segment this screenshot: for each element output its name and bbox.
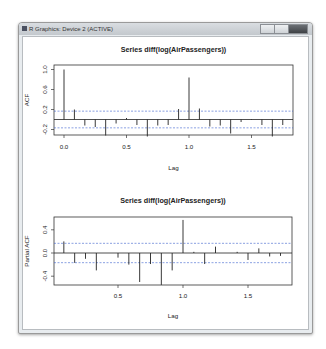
x-axis-label: Lag [168, 164, 179, 171]
plot-title: Series diff(log(AirPassengers)) [120, 196, 226, 205]
y-axis-label: ACF [23, 94, 30, 107]
plots-svg: Series diff(log(AirPassengers))0.00.51.0… [23, 37, 308, 331]
y-axis-label: Partial ACF [23, 235, 30, 267]
x-tick-label: 1.5 [247, 143, 256, 150]
minimize-button[interactable] [260, 24, 275, 34]
y-tick-label: 1.0 [41, 65, 48, 74]
x-tick-label: 1.5 [244, 292, 253, 299]
window-controls [261, 24, 308, 33]
plot-frame [54, 65, 293, 135]
title-bar[interactable]: R Graphics: Device 2 (ACTIVE) [19, 23, 312, 35]
y-tick-label: 0.4 [41, 225, 48, 234]
x-tick-label: 0.5 [122, 143, 131, 150]
y-tick-label: 0.6 [41, 85, 48, 94]
plot-frame [54, 217, 292, 285]
window-title: R Graphics: Device 2 (ACTIVE) [29, 24, 113, 34]
x-tick-label: 1.0 [185, 143, 194, 150]
y-tick-label: -0.2 [41, 124, 48, 135]
y-tick-label: -0.4 [41, 270, 48, 281]
x-tick-label: 1.0 [179, 292, 188, 299]
x-tick-label: 0.5 [114, 292, 123, 299]
x-tick-label: 0.0 [60, 143, 69, 150]
y-tick-label: 0.2 [41, 105, 48, 114]
y-tick-label: 0.0 [41, 248, 48, 257]
maximize-button[interactable] [274, 24, 289, 34]
r-app-icon [22, 26, 27, 31]
x-axis-label: Lag [168, 312, 179, 319]
plot-title: Series diff(log(AirPassengers)) [121, 45, 227, 54]
plot-canvas: Series diff(log(AirPassengers))0.00.51.0… [22, 36, 309, 330]
r-graphics-window: R Graphics: Device 2 (ACTIVE) Series dif… [18, 22, 313, 334]
close-button[interactable] [288, 24, 308, 34]
